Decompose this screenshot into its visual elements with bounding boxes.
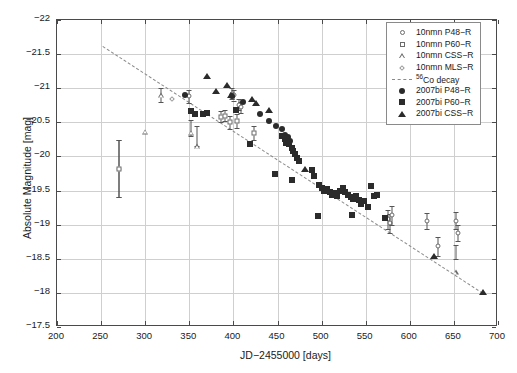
- error-bar-cap: [425, 213, 430, 214]
- data-point-square-open: [234, 118, 239, 123]
- y-tick: [492, 122, 496, 123]
- error-bar-cap: [159, 102, 164, 103]
- data-point-square-open: [227, 120, 232, 125]
- data-point-triangle-filled: [223, 82, 231, 88]
- data-point-diamond-open: [169, 96, 175, 102]
- data-point-circle-open: [453, 218, 458, 223]
- y-tick: [492, 191, 496, 192]
- gridline-vertical: [101, 20, 102, 325]
- y-tick: [492, 259, 496, 260]
- error-bar-cap: [251, 126, 256, 127]
- error-bar-cap: [388, 233, 393, 234]
- data-point-triangle-filled: [212, 88, 220, 94]
- error-bar-cap: [227, 129, 232, 130]
- x-tick-label: 350: [168, 330, 208, 341]
- error-bar-cap: [159, 88, 164, 89]
- data-point-square-filled: [204, 110, 210, 116]
- y-axis-title: Absolute Magnitude [mag]: [21, 68, 33, 288]
- error-bar-cap: [222, 121, 227, 122]
- x-tick: [454, 321, 455, 325]
- y-tick-label: −21.5: [4, 46, 50, 57]
- x-tick: [322, 20, 323, 24]
- x-tick: [498, 20, 499, 24]
- y-tick: [492, 54, 496, 55]
- data-point-square-filled: [289, 177, 295, 183]
- data-point-circle-filled: [182, 92, 188, 98]
- gridline-horizontal: [57, 191, 496, 192]
- error-bar-cap: [456, 225, 461, 226]
- y-tick: [57, 327, 61, 328]
- data-point-square-filled: [272, 171, 278, 177]
- data-point-triangle-open: [188, 130, 194, 135]
- error-bar-cap: [116, 197, 121, 198]
- data-point-triangle-open: [158, 93, 164, 98]
- error-bar-cap: [187, 90, 192, 91]
- data-point-triangle-filled: [430, 253, 438, 259]
- error-bar-cap: [436, 237, 441, 238]
- x-tick: [233, 20, 234, 24]
- error-bar-cap: [222, 110, 227, 111]
- error-bar-cap: [456, 241, 461, 242]
- legend-item-label: 10nmn P48−R: [413, 27, 471, 39]
- legend-item-label: 10nmn P60−R: [413, 39, 471, 51]
- data-point-square-filled: [315, 213, 321, 219]
- triangle-filled-icon: [398, 111, 406, 117]
- x-tick: [145, 321, 146, 325]
- error-bar-cap: [189, 120, 194, 121]
- x-tick-label: 500: [301, 330, 341, 341]
- x-tick-label: 400: [212, 330, 252, 341]
- legend-marker-square-open: [391, 42, 413, 47]
- x-tick: [278, 20, 279, 24]
- y-tick: [57, 122, 61, 123]
- y-tick: [492, 20, 496, 21]
- data-point-circle-open: [425, 219, 430, 224]
- legend-item: 10nmn CSS−R: [391, 50, 474, 62]
- legend-item: 2007bi CSS−R: [391, 108, 474, 120]
- x-tick-label: 450: [257, 330, 297, 341]
- data-point-circle-filled: [266, 118, 272, 124]
- data-point-square-filled: [334, 193, 340, 199]
- y-tick: [492, 88, 496, 89]
- y-tick: [57, 225, 61, 226]
- x-tick: [189, 20, 190, 24]
- x-tick: [498, 321, 499, 325]
- error-bar-cap: [239, 113, 244, 114]
- data-point-circle-filled: [240, 99, 246, 105]
- error-bar-cap: [227, 116, 232, 117]
- legend-item: 10nmn P60−R: [391, 39, 474, 51]
- error-bar-cap: [232, 90, 237, 91]
- data-point-square-filled: [247, 141, 253, 147]
- gridline-vertical: [366, 20, 367, 325]
- error-bar-cap: [232, 101, 237, 102]
- error-bar-cap: [390, 206, 395, 207]
- y-tick: [57, 191, 61, 192]
- x-tick: [101, 20, 102, 24]
- x-tick: [410, 321, 411, 325]
- data-point-square-filled: [192, 111, 198, 117]
- legend-item-label: 2007bi CSS−R: [413, 108, 473, 120]
- gridline-vertical: [145, 20, 146, 325]
- legend-item-label: 10nmn CSS−R: [413, 50, 474, 62]
- error-bar: [455, 245, 456, 259]
- data-point-triangle-filled: [265, 107, 273, 113]
- x-tick-label: 700: [477, 330, 517, 341]
- data-point-circle-filled: [257, 111, 263, 117]
- error-bar-cap: [234, 128, 239, 129]
- x-tick: [322, 321, 323, 325]
- data-point-triangle-open: [194, 143, 200, 148]
- y-tick: [492, 225, 496, 226]
- gridline-horizontal: [57, 225, 496, 226]
- gridline-vertical: [233, 20, 234, 325]
- legend-item-label: 2007bi P60−R: [413, 97, 471, 109]
- dashed-line-icon: [392, 79, 412, 80]
- data-point-triangle-filled: [227, 92, 235, 98]
- legend-marker-circle-filled: [391, 88, 413, 94]
- legend-item: 2007bi P60−R: [391, 97, 474, 109]
- data-point-square-filled: [296, 158, 302, 164]
- legend-item-label: 2007bi P48−R: [413, 85, 471, 97]
- error-bar-cap: [425, 229, 430, 230]
- x-tick-label: 250: [80, 330, 120, 341]
- error-bar-cap: [453, 259, 458, 260]
- legend-item: 10nmn P48−R: [391, 27, 474, 39]
- y-tick: [57, 156, 61, 157]
